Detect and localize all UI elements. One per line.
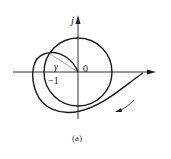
critical-point-label: −1 <box>48 76 59 86</box>
phase-margin-angle-label: γ <box>54 62 58 72</box>
direction-arrow-head-icon <box>115 108 122 112</box>
real-axis-arrow-icon <box>147 70 156 75</box>
origin-label: 0 <box>83 64 88 74</box>
diagram-canvas <box>0 0 171 159</box>
imag-axis-label: j <box>71 15 74 26</box>
figure-caption: (a) <box>72 134 82 143</box>
imag-axis-arrow-icon <box>76 15 81 24</box>
nyquist-diagram: j 0 −1 γ (a) <box>0 0 171 159</box>
